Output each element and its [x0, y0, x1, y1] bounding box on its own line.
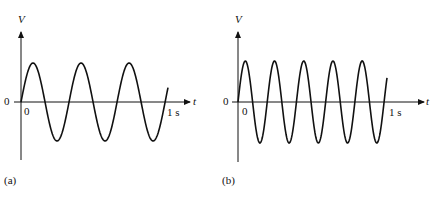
- panel-b-x-axis-label: t: [426, 96, 429, 107]
- figure-canvas: [0, 0, 439, 201]
- panel-a-y-axis-label: V: [18, 14, 25, 25]
- panel-a-x-axis-label: t: [193, 96, 196, 107]
- panel-b-origin-left-label: 0: [223, 96, 229, 107]
- panel-b-caption: (b): [222, 175, 235, 186]
- panel-a-axes: [14, 32, 190, 160]
- panel-a-origin-left-label: 0: [4, 96, 10, 107]
- panel-b-origin-below-label: 0: [242, 106, 248, 117]
- panel-b-y-axis-label: V: [235, 14, 242, 25]
- panel-a-caption: (a): [4, 175, 16, 186]
- panel-a-end-time-label: 1 s: [167, 107, 180, 118]
- panel-a-origin-below-label: 0: [24, 106, 30, 117]
- panel-b-end-time-label: 1 s: [389, 107, 402, 118]
